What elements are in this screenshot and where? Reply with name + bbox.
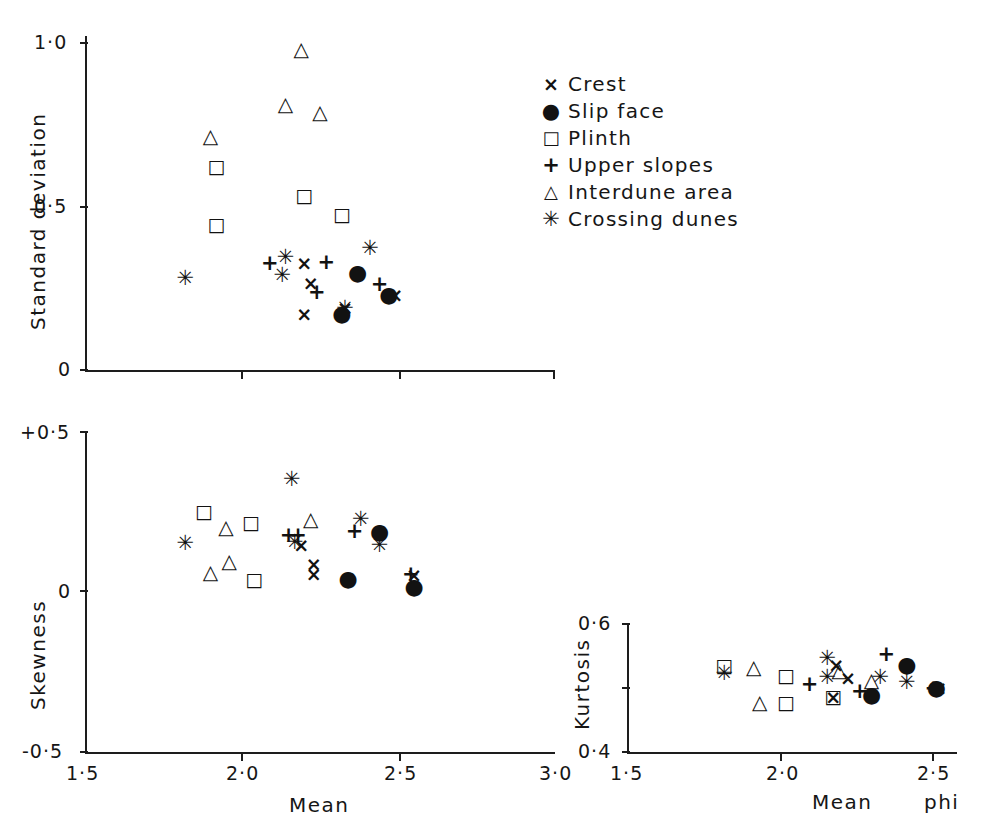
skew-ylabel-p05: +0·5 — [20, 421, 70, 443]
legend-label-plinth: Plinth — [568, 126, 632, 150]
marker-glyph: ✳ — [286, 531, 304, 552]
sd-ytick-0 — [80, 369, 88, 371]
marker-glyph: + — [371, 274, 389, 295]
marker-glyph: ✳ — [336, 297, 354, 318]
sd-ytick-1 — [80, 42, 88, 44]
marker-glyph: △ — [312, 102, 327, 122]
marker-glyph: ✳ — [715, 662, 733, 683]
kurt-x-axis — [627, 752, 957, 754]
panel-kurtosis: 0·6 0·4 1·5 2·0 2·5 Kurtosis Mean phi ××… — [560, 600, 997, 828]
legend-label-interdune: Interdune area — [568, 180, 734, 204]
marker-glyph: □ — [195, 502, 213, 521]
marker-glyph: □ — [242, 513, 260, 532]
marker-glyph: □ — [208, 214, 226, 233]
legend-label-crest: Crest — [568, 72, 627, 96]
legend-marker-crossing_dunes-icon: ✳ — [534, 207, 568, 231]
skew-x-axis — [85, 752, 555, 754]
marker-glyph: ✳ — [176, 267, 194, 288]
skew-y-axis — [85, 432, 87, 754]
marker-glyph: □ — [208, 157, 226, 176]
skew-ylabel-m05: -0·5 — [22, 740, 63, 762]
marker-glyph: □ — [777, 665, 795, 684]
skew-xaxis-title: Mean — [289, 793, 350, 817]
legend-marker-slip_face-icon: ● — [534, 99, 568, 123]
legend-marker-upper_slopes-icon: + — [534, 153, 568, 177]
legend-marker-plinth-icon: □ — [534, 127, 568, 148]
marker-glyph: △ — [293, 39, 308, 59]
marker-glyph: + — [402, 563, 420, 584]
kurt-xtick-25 — [932, 753, 934, 761]
legend-item-crossing_dunes: ✳Crossing dunes — [534, 205, 739, 232]
marker-glyph: + — [801, 674, 819, 695]
legend-marker-crest-icon: × — [534, 73, 568, 95]
sd-xtick-25 — [399, 371, 401, 379]
skew-xlabel-15: 1·5 — [66, 762, 99, 784]
legend-item-slip_face: ●Slip face — [534, 97, 739, 124]
marker-glyph: △ — [203, 126, 218, 146]
sd-xtick-30 — [553, 371, 555, 379]
marker-glyph: ✳ — [361, 237, 379, 258]
panel-skewness: +0·5 0 -0·5 1·5 2·0 2·5 3·0 Skewness Mea… — [0, 410, 600, 828]
marker-glyph: + — [308, 282, 326, 303]
marker-glyph: ● — [348, 262, 367, 284]
legend: ×Crest●Slip face□Plinth+Upper slopes△Int… — [534, 70, 739, 232]
marker-glyph: △ — [218, 517, 233, 537]
marker-glyph: □ — [245, 569, 263, 588]
skew-xlabel-25: 2·5 — [384, 762, 417, 784]
kurt-xlabel-20: 2·0 — [766, 762, 799, 784]
kurt-xlabel-15: 1·5 — [610, 762, 643, 784]
marker-glyph: □ — [824, 686, 842, 705]
legend-label-crossing_dunes: Crossing dunes — [568, 207, 739, 231]
marker-glyph: △ — [203, 562, 218, 582]
marker-glyph: ✳ — [352, 509, 370, 530]
marker-glyph: △ — [746, 657, 761, 677]
marker-glyph: ✳ — [274, 264, 292, 285]
marker-glyph: ✳ — [872, 666, 890, 687]
skew-xtick-25 — [399, 753, 401, 761]
legend-item-plinth: □Plinth — [534, 124, 739, 151]
sd-y-axis — [85, 36, 87, 372]
kurt-y-axis — [627, 624, 629, 754]
marker-glyph: △ — [752, 692, 767, 712]
skew-ylabel-0: 0 — [58, 580, 71, 602]
marker-glyph: + — [317, 251, 335, 272]
skew-ytick-m05 — [80, 751, 88, 753]
kurt-ylabel-06: 0·6 — [578, 612, 611, 634]
legend-item-crest: ×Crest — [534, 70, 739, 97]
kurt-ytick-06 — [622, 623, 630, 625]
marker-glyph: □ — [777, 692, 795, 711]
marker-glyph: ✳ — [283, 469, 301, 490]
sd-x-axis — [85, 370, 555, 372]
marker-glyph: □ — [333, 205, 351, 224]
marker-glyph: △ — [221, 551, 236, 571]
marker-glyph: △ — [303, 509, 318, 529]
kurt-ytick-05 — [622, 687, 630, 689]
legend-label-upper_slopes: Upper slopes — [568, 153, 714, 177]
marker-glyph: × — [296, 305, 312, 324]
marker-glyph: + — [925, 677, 943, 698]
marker-glyph: + — [877, 643, 895, 664]
legend-item-upper_slopes: +Upper slopes — [534, 151, 739, 178]
kurt-xlabel-25: 2·5 — [917, 762, 950, 784]
marker-glyph: □ — [295, 186, 313, 205]
skew-ytick-p05 — [80, 431, 88, 433]
marker-glyph: ✳ — [176, 533, 194, 554]
sd-ylabel-1: 1·0 — [34, 31, 67, 53]
legend-label-slip_face: Slip face — [568, 99, 665, 123]
skew-ytick-0 — [80, 590, 88, 592]
kurt-xaxis-title: Mean — [812, 790, 873, 814]
sd-xtick-20 — [241, 371, 243, 379]
legend-item-interdune: △Interdune area — [534, 178, 739, 205]
kurt-axis-title: Kurtosis — [570, 639, 594, 731]
panel-standard-deviation: 1·0 0·5 0 Standard deviation ×××××●●●□□□… — [0, 0, 600, 395]
marker-glyph: × — [306, 564, 322, 583]
sd-ylabel-0: 0 — [58, 358, 71, 380]
skew-xlabel-20: 2·0 — [226, 762, 259, 784]
marker-glyph: ✳ — [819, 666, 837, 687]
skew-xtick-20 — [241, 753, 243, 761]
marker-glyph: ✳ — [371, 534, 389, 555]
kurt-phi-unit-label: phi — [924, 790, 959, 814]
marker-glyph: ✳ — [898, 672, 916, 693]
skew-axis-title: Skewness — [26, 600, 50, 710]
legend-marker-interdune-icon: △ — [534, 181, 568, 202]
